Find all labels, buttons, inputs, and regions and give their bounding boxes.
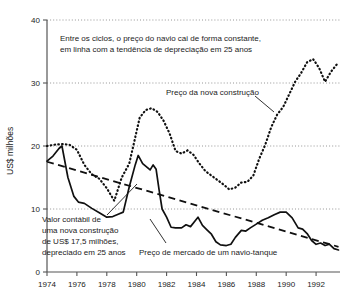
x-tick-label-1988: 1988 — [247, 280, 265, 289]
annotations: Entre os ciclos, o preço do navio cai de… — [42, 34, 278, 257]
x-tick-label-1976: 1976 — [68, 280, 86, 289]
x-tick-label-1986: 1986 — [217, 280, 235, 289]
series-path-0 — [47, 59, 337, 201]
newbuild-leader-line — [255, 96, 274, 112]
x-tick-label-1980: 1980 — [128, 280, 146, 289]
y-axis-title: US$ milhões — [5, 127, 15, 175]
book-value-leader-line — [107, 184, 137, 215]
x-tick-label-1992: 1992 — [307, 280, 325, 289]
market-price-series-label: Preço de mercado de um navio-tanque — [139, 248, 278, 257]
x-tick-label-1974: 1974 — [38, 280, 56, 289]
x-tick-label-1984: 1984 — [188, 280, 206, 289]
book-value-label-line-1: Valor contábil de — [42, 215, 102, 224]
y-tick-label-30: 30 — [31, 79, 40, 88]
y-tick-label-10: 10 — [31, 205, 40, 214]
x-tick-label-1982: 1982 — [158, 280, 176, 289]
y-tick-label-0: 0 — [36, 268, 41, 277]
newbuild-series-label: Preço da nova construção — [166, 88, 259, 97]
tanker-price-chart: 010203040 197419761978198019821984198619… — [0, 0, 348, 296]
x-tick-label-1978: 1978 — [98, 280, 116, 289]
y-tick-label-40: 40 — [31, 16, 40, 25]
book-value-label-line-3: de US$ 17,5 milhões, — [42, 237, 119, 246]
book-value-label-line-4: depreciado em 25 anos — [42, 248, 126, 257]
market-price-leader-line — [150, 219, 166, 243]
headline-note-line-2: em linha com a tendência de depreciação … — [60, 45, 252, 54]
y-tick-label-20: 20 — [31, 142, 40, 151]
chart-container: 010203040 197419761978198019821984198619… — [0, 0, 348, 296]
book-value-label-line-2: uma nova construção — [42, 226, 119, 235]
x-axis-ticks: 1974197619781980198219841986198819901992 — [38, 272, 325, 289]
headline-note-line-1: Entre os ciclos, o preço do navio cai de… — [60, 34, 261, 43]
x-tick-label-1990: 1990 — [277, 280, 295, 289]
